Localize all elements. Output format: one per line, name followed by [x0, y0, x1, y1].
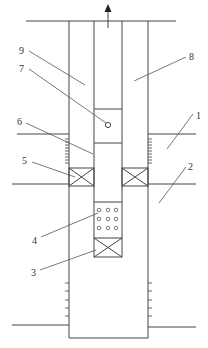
- perforated-screen: [97, 208, 118, 230]
- label-9: 9: [19, 45, 24, 56]
- label-5: 5: [22, 155, 27, 166]
- bottom-plug: [94, 238, 122, 257]
- flow-up-arrow-icon: [105, 4, 112, 28]
- lower-perforations: [65, 283, 152, 316]
- label-4: 4: [32, 235, 37, 246]
- packer-left: [69, 168, 94, 186]
- packer-right: [122, 168, 148, 186]
- leader-lines: [26, 51, 193, 270]
- label-1: 1: [196, 110, 201, 121]
- casing: [69, 21, 148, 338]
- label-6: 6: [17, 116, 22, 127]
- label-3: 3: [31, 267, 36, 278]
- tubing: [94, 21, 122, 257]
- formation-boundaries: [12, 134, 196, 327]
- label-8: 8: [189, 51, 194, 62]
- label-7: 7: [19, 63, 24, 74]
- label-2: 2: [188, 161, 193, 172]
- wellbore-diagram: 1 2 3 4 5 6 7 8 9: [0, 0, 208, 348]
- valve-port-icon: [105, 122, 110, 127]
